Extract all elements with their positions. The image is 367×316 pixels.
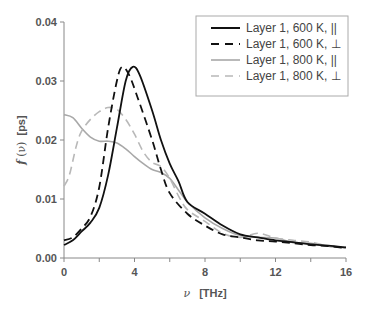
y-tick-label: 0.03 xyxy=(36,75,57,87)
x-tick-label: 16 xyxy=(340,266,352,278)
legend-label: Layer 1, 800 K, ⊥ xyxy=(246,69,341,83)
y-tick-label: 0.04 xyxy=(36,16,58,28)
x-tick-label: 12 xyxy=(269,266,281,278)
y-ticks: 0.000.010.020.030.04 xyxy=(36,16,64,264)
y-tick-label: 0.00 xyxy=(36,252,57,264)
x-tick-label: 0 xyxy=(61,266,67,278)
legend: Layer 1, 600 K, ||Layer 1, 600 K, ⊥Layer… xyxy=(196,16,348,96)
x-tick-label: 4 xyxy=(131,266,138,278)
series-line xyxy=(64,107,346,248)
x-axis-label: ν [THz] xyxy=(183,287,227,300)
legend-label: Layer 1, 600 K, ⊥ xyxy=(246,37,341,51)
y-tick-label: 0.01 xyxy=(36,193,57,205)
legend-label: Layer 1, 800 K, || xyxy=(246,53,337,67)
line-chart: 0.000.010.020.030.04 0481216 ν [THz] f (… xyxy=(0,0,367,316)
y-axis-label: f (ν) [ps] xyxy=(15,115,28,166)
legend-label: Layer 1, 600 K, || xyxy=(246,21,337,35)
x-tick-label: 8 xyxy=(202,266,208,278)
y-tick-label: 0.02 xyxy=(36,134,57,146)
x-ticks: 0481216 xyxy=(61,258,352,278)
